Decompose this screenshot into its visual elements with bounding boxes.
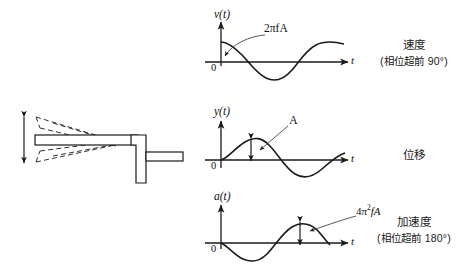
support-bracket: [131, 135, 146, 183]
acceleration-y-axis-label: a(t): [214, 190, 231, 202]
velocity-origin-label: 0: [211, 62, 216, 73]
displacement-callout-leader: [260, 126, 288, 150]
displacement-side-label: 位移: [355, 148, 473, 164]
acceleration-side-label-sub: (相位超前 180°): [355, 231, 473, 245]
panel-displacement: [205, 121, 348, 177]
velocity-side-label-sub: (相位超前 90°): [355, 54, 473, 68]
figure-root: v(t) 0 t 2πfA 速度 (相位超前 90°) y(t) 0 t A 位…: [0, 0, 473, 277]
velocity-x-axis-label: t: [351, 54, 354, 66]
acceleration-side-label: 加速度 (相位超前 180°): [355, 215, 473, 245]
displacement-waveform: [221, 138, 345, 176]
displacement-origin-label: 0: [211, 160, 216, 171]
acceleration-origin-label: 0: [211, 243, 216, 254]
reed-bar: [35, 135, 138, 145]
displacement-side-label-main: 位移: [355, 148, 473, 164]
velocity-side-label-main: 速度: [355, 38, 473, 54]
acceleration-callout-leader: [310, 216, 356, 231]
acceleration-side-label-main: 加速度: [355, 215, 473, 231]
displacement-y-axis-label: y(t): [214, 105, 230, 117]
acceleration-x-axis-label: t: [351, 235, 354, 247]
velocity-amplitude-callout: 2πfA: [264, 22, 288, 34]
velocity-side-label: 速度 (相位超前 90°): [355, 38, 473, 68]
displacement-amplitude-callout: A: [289, 113, 298, 128]
velocity-y-axis-label: v(t): [214, 8, 230, 20]
velocity-waveform: [221, 42, 344, 80]
mechanism-diagram: [24, 117, 183, 183]
stub-arm: [146, 152, 183, 161]
displacement-x-axis-label: t: [351, 152, 354, 164]
panel-acceleration: [205, 205, 356, 261]
